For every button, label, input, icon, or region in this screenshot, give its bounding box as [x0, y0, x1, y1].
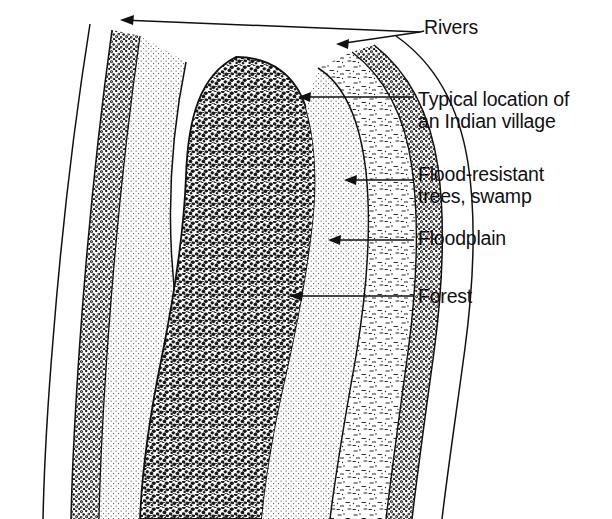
label-village-line2: an Indian village — [418, 110, 556, 132]
label-forest: Forest — [418, 285, 472, 307]
label-rivers: Rivers — [424, 16, 478, 38]
label-swamp-line1: Flood-resistant — [418, 163, 544, 185]
figure-root: Rivers Typical location ofan Indian vill… — [0, 0, 612, 519]
floodplain-cross-section — [0, 0, 612, 519]
label-swamp-line2: trees, swamp — [418, 185, 532, 207]
label-floodplain: Floodplain — [418, 227, 506, 249]
label-flood-resistant-trees-swamp: Flood-resistanttrees, swamp — [418, 163, 544, 207]
label-village-line1: Typical location of — [418, 88, 569, 110]
label-typical-location-indian-village: Typical location ofan Indian village — [418, 88, 569, 132]
